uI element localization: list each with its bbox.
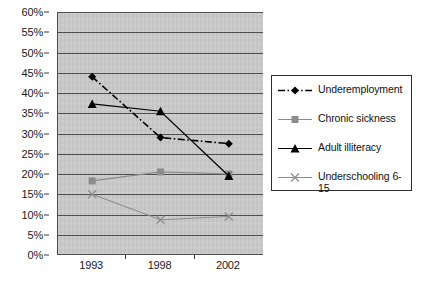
- x-tick-mark: [125, 255, 126, 259]
- y-tick-mark: [44, 153, 49, 154]
- y-tick-mark: [44, 133, 49, 134]
- x-tick-label: 1998: [148, 259, 172, 271]
- x-axis: 199319982002: [57, 258, 262, 280]
- y-tick-mark: [44, 174, 49, 175]
- legend-entry[interactable]: Underemployment: [272, 76, 411, 105]
- y-axis: 0%5%10%15%20%25%30%35%40%45%50%55%60%: [0, 0, 52, 258]
- legend-key-diamond-icon: [272, 76, 318, 105]
- series-2: [89, 168, 233, 184]
- chart-legend: UnderemploymentChronic sicknessAdult ill…: [271, 75, 412, 191]
- x-tick-mark: [194, 255, 195, 259]
- x-tick-label: 1993: [79, 259, 103, 271]
- y-tick-mark: [44, 93, 49, 94]
- y-tick-mark: [44, 234, 49, 235]
- y-tick-label: 40%: [22, 87, 43, 99]
- y-tick-label: 55%: [22, 26, 43, 38]
- legend-label: Chronic sickness: [318, 105, 396, 125]
- y-tick-label: 35%: [22, 107, 43, 119]
- legend-entry[interactable]: Adult illiteracy: [272, 134, 411, 163]
- legend-entry[interactable]: Chronic sickness: [272, 105, 411, 134]
- y-tick-label: 5%: [28, 229, 44, 241]
- legend-entry[interactable]: Underschooling 6- 15: [272, 163, 411, 192]
- y-tick-mark: [44, 52, 49, 53]
- y-tick-label: 50%: [22, 47, 43, 59]
- y-tick-mark: [44, 113, 49, 114]
- y-tick-mark: [44, 255, 49, 256]
- legend-key-x-icon: [272, 163, 318, 192]
- y-tick-label: 10%: [22, 209, 43, 221]
- y-tick-label: 60%: [22, 6, 43, 18]
- legend-label: Adult illiteracy: [318, 134, 381, 154]
- legend-key-triangle-icon: [272, 134, 318, 163]
- y-tick-label: 15%: [22, 188, 43, 200]
- y-tick-mark: [44, 72, 49, 73]
- line-chart-figure: 0%5%10%15%20%25%30%35%40%45%50%55%60% 19…: [0, 0, 422, 298]
- y-tick-label: 0%: [28, 249, 44, 261]
- legend-label: Underschooling 6- 15: [318, 163, 402, 194]
- y-tick-label: 30%: [22, 128, 43, 140]
- y-tick-mark: [44, 214, 49, 215]
- plot-area: [57, 12, 263, 255]
- legend-key-square-icon: [272, 105, 318, 134]
- x-tick-label: 2002: [216, 259, 240, 271]
- y-tick-label: 45%: [22, 67, 43, 79]
- series-layer: [58, 12, 263, 255]
- legend-label: Underemployment: [318, 76, 402, 96]
- y-tick-label: 20%: [22, 168, 43, 180]
- y-tick-mark: [44, 12, 49, 13]
- series-4: [88, 190, 233, 224]
- y-tick-mark: [44, 194, 49, 195]
- y-tick-label: 25%: [22, 148, 43, 160]
- y-tick-mark: [44, 32, 49, 33]
